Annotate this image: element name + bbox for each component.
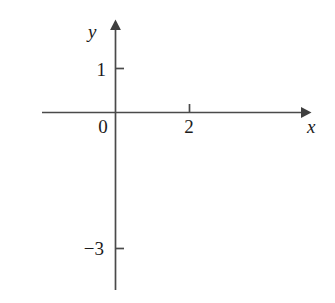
- x-axis-label: x: [307, 117, 315, 136]
- y-tick-label-neg3: −3: [70, 239, 104, 258]
- y-tick-label-1: 1: [86, 60, 106, 79]
- plot-canvas: [0, 0, 335, 303]
- y-axis-label: y: [88, 22, 96, 41]
- x-tick-label-2: 2: [180, 117, 198, 136]
- graph-figure: y x 1 0 2 −3: [0, 0, 335, 303]
- origin-label: 0: [95, 117, 111, 136]
